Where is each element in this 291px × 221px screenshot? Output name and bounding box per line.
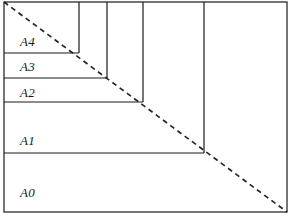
size-label-a1: A1	[20, 134, 35, 147]
paper-size-diagram: A4 A3 A2 A1 A0	[0, 0, 291, 221]
diagonal-dashed-line	[4, 2, 287, 212]
paper-size-svg	[0, 0, 291, 221]
size-label-a3: A3	[20, 60, 35, 73]
size-label-a4: A4	[20, 35, 35, 48]
size-label-a2: A2	[20, 86, 35, 99]
size-label-a0: A0	[20, 186, 35, 199]
